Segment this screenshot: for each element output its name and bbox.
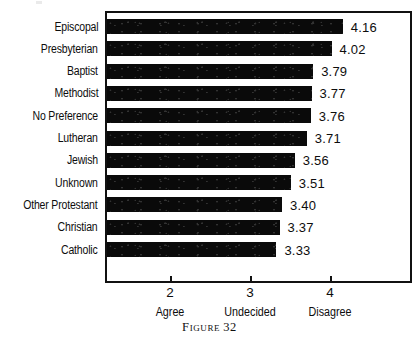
x-tick-mark: [250, 276, 252, 283]
bar: [107, 86, 312, 101]
bar: [107, 197, 282, 212]
category-label: Jewish: [61, 154, 98, 167]
bar-value-label: 3.71: [315, 132, 341, 145]
figure-32: Episcopal4.16Presbyterian4.02Baptist3.79…: [0, 0, 419, 340]
bar-print-texture: [107, 242, 276, 257]
bar: [107, 220, 280, 235]
bar-value-label: 4.02: [340, 42, 366, 55]
category-label: No Preference: [20, 109, 98, 122]
bar: [107, 131, 307, 146]
bar-print-texture: [107, 86, 312, 101]
category-label: Catholic: [54, 243, 98, 256]
bar-print-texture: [107, 153, 295, 168]
bar-rows: Episcopal4.16Presbyterian4.02Baptist3.79…: [0, 11, 419, 261]
bar: [107, 64, 313, 79]
bar-row: Catholic3.33: [0, 242, 419, 257]
bar-row: Jewish3.56: [0, 153, 419, 168]
category-label-text: No Preference: [32, 109, 98, 122]
bar-print-texture: [107, 108, 311, 123]
x-anchor-label: Disagree: [305, 306, 355, 319]
bar-value-label: 3.33: [284, 243, 310, 256]
bar: [107, 108, 311, 123]
category-label-text: Presbyterian: [41, 43, 98, 56]
bar: [107, 19, 343, 34]
category-label-text: Episcopal: [54, 20, 98, 33]
bar-print-texture: [107, 197, 282, 212]
bar-value-label: 3.40: [290, 198, 316, 211]
bar-print-texture: [107, 19, 343, 34]
caption-number: 32: [223, 320, 237, 334]
x-tick-mark: [330, 276, 332, 283]
figure-caption: Figure32: [0, 320, 419, 335]
bar: [107, 242, 276, 257]
bar-print-texture: [107, 41, 332, 56]
x-tick-mark: [170, 276, 172, 283]
bar-print-texture: [107, 64, 313, 79]
bar-row: Episcopal4.16: [0, 19, 419, 34]
category-label: Episcopal: [46, 20, 98, 33]
bar-row: Unknown3.51: [0, 175, 419, 190]
category-label: Presbyterian: [30, 43, 98, 56]
bar-row: Presbyterian4.02: [0, 41, 419, 56]
bar-row: Baptist3.79: [0, 64, 419, 79]
bar-row: Methodist3.77: [0, 86, 419, 101]
x-anchor-label-text: Undecided: [224, 306, 275, 319]
bar-value-label: 3.77: [320, 87, 346, 100]
bar: [107, 41, 332, 56]
x-anchor-label-text: Agree: [156, 306, 185, 319]
bar-row: Lutheran3.71: [0, 131, 419, 146]
category-label-text: Jewish: [67, 154, 98, 167]
x-anchor-label: Agree: [153, 306, 186, 319]
bar-row: Other Protestant3.40: [0, 197, 419, 212]
category-label: Baptist: [61, 65, 98, 78]
category-label-text: Unknown: [55, 176, 98, 189]
category-label-text: Methodist: [54, 87, 98, 100]
category-label-text: Catholic: [61, 243, 98, 256]
bar-print-texture: [107, 175, 291, 190]
bar-value-label: 4.16: [351, 20, 377, 33]
x-anchor-label: Undecided: [220, 306, 280, 319]
category-label: Lutheran: [50, 132, 98, 145]
bar-value-label: 3.37: [288, 221, 314, 234]
scan-artifact: [36, 1, 42, 4]
bar: [107, 153, 295, 168]
bar-print-texture: [107, 220, 280, 235]
category-label: Christian: [50, 221, 98, 234]
x-tick-label: 2: [166, 286, 174, 300]
bar: [107, 175, 291, 190]
bar-value-label: 3.76: [319, 109, 345, 122]
category-label: Methodist: [46, 87, 98, 100]
x-tick-label: 4: [326, 286, 334, 300]
category-label-text: Baptist: [67, 65, 98, 78]
category-label: Other Protestant: [9, 199, 98, 212]
bar-value-label: 3.56: [303, 154, 329, 167]
bar-value-label: 3.79: [321, 65, 347, 78]
bar-row: Christian3.37: [0, 220, 419, 235]
category-label-text: Lutheran: [58, 132, 98, 145]
x-tick-label: 3: [246, 286, 254, 300]
bar-value-label: 3.51: [299, 176, 325, 189]
category-label-text: Christian: [58, 221, 98, 234]
caption-word: Figure: [182, 320, 220, 334]
bar-print-texture: [107, 131, 307, 146]
category-label-text: Other Protestant: [24, 199, 98, 212]
bar-row: No Preference3.76: [0, 108, 419, 123]
category-label: Unknown: [47, 176, 98, 189]
x-anchor-label-text: Disagree: [308, 306, 351, 319]
